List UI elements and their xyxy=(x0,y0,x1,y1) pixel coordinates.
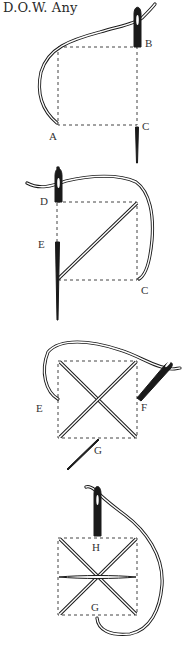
needle-icon xyxy=(55,169,62,203)
panel-4: H G xyxy=(58,486,162,634)
point-label-c: C xyxy=(141,284,148,296)
point-label-h: H xyxy=(92,541,100,553)
needle-icon xyxy=(56,242,60,320)
needle-icon xyxy=(94,487,101,537)
needle-icon xyxy=(136,127,139,163)
stitch-square xyxy=(58,47,137,125)
diagram-title: D.O.W. Any xyxy=(3,0,78,15)
needle-icon xyxy=(134,7,141,47)
diagonal-stitch xyxy=(58,203,137,279)
diagram-canvas: .dash { fill: none; stroke: #444; stroke… xyxy=(0,0,194,651)
point-label-e: E xyxy=(36,402,43,414)
cross-stitch xyxy=(60,362,136,437)
point-label-g: G xyxy=(94,444,102,456)
point-label-e: E xyxy=(38,238,45,250)
tie-stitch xyxy=(59,576,136,579)
thread xyxy=(27,176,152,279)
panel-2: D E C xyxy=(27,169,152,321)
point-label-b: B xyxy=(145,37,152,49)
point-label-d: D xyxy=(40,195,48,207)
panel-3: E F G xyxy=(36,342,180,470)
panel-1: A B C xyxy=(39,4,155,170)
point-label-c: C xyxy=(142,120,149,132)
point-label-g: G xyxy=(91,601,99,613)
point-label-f: F xyxy=(141,401,147,413)
stitch-diagram: D.O.W. Any .dash { fill: none; stroke: #… xyxy=(0,0,194,651)
point-label-a: A xyxy=(49,130,57,142)
